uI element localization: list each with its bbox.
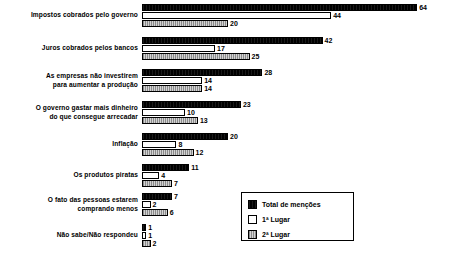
category-label: O fato das pessoas estarem comprando men… [0,196,142,213]
legend-swatch-icon [248,200,257,209]
bar-total: 42 [142,37,332,44]
bar-rect [142,109,185,116]
category-label: Juros cobrados pelos bancos [0,44,142,52]
chart-row: Inflação20812 [0,133,450,156]
chart-row: Os produtos piratas1147 [0,164,450,187]
chart-legend: Total de menções1ª Lugar2ª Lugar [241,192,354,241]
bar-rect [142,201,151,208]
bar-rect [142,117,198,124]
chart-row: O governo gastar mais dinheiro do que co… [0,101,450,124]
bar-rect [142,12,331,19]
bar-group: 281414 [142,69,450,92]
bar-rect [142,180,172,187]
bar-second: 13 [142,117,208,124]
category-label: O governo gastar mais dinheiro do que co… [0,104,142,121]
bar-second: 7 [142,180,178,187]
bar-rect [142,53,250,60]
bar-second: 12 [142,149,203,156]
bar-first: 14 [142,77,212,84]
bar-value-label: 25 [252,53,260,60]
legend-label: 1ª Lugar [262,215,290,224]
bar-rect [142,141,176,148]
bar-value-label: 20 [230,20,238,27]
bar-rect [142,224,146,231]
bar-rect [142,193,172,200]
bar-first: 4 [142,172,165,179]
category-label: Impostos cobrados pelo governo [0,11,142,19]
bar-value-label: 1 [148,232,152,239]
bar-value-label: 10 [187,109,195,116]
legend-swatch-icon [248,215,257,224]
bar-value-label: 8 [178,141,182,148]
bar-rect [142,209,168,216]
bar-second: 2 [142,240,157,247]
bar-rect [142,172,159,179]
bar-first: 44 [142,12,341,19]
chart-row: Impostos cobrados pelo governo644420 [0,4,450,27]
bar-value-label: 28 [264,69,272,76]
bar-total: 23 [142,101,251,108]
bar-total: 28 [142,69,272,76]
legend-item: 1ª Lugar [248,213,346,225]
bar-value-label: 14 [204,77,212,84]
chart-row: As empresas não investirem para aumentar… [0,69,450,92]
legend-label: 2ª Lugar [262,230,290,239]
bar-second: 25 [142,53,259,60]
bar-group: 1147 [142,164,450,187]
bar-rect [142,85,202,92]
legend-item: 2ª Lugar [248,228,346,240]
bar-value-label: 1 [148,224,152,231]
bar-second: 20 [142,20,238,27]
bar-group: 20812 [142,133,450,156]
legend-swatch-icon [248,230,257,239]
bar-value-label: 13 [200,117,208,124]
bar-group: 421725 [142,37,450,60]
bar-value-label: 64 [419,4,427,11]
bar-group: 231013 [142,101,450,124]
bar-rect [142,77,202,84]
bar-value-label: 44 [333,12,341,19]
bar-value-label: 12 [196,149,204,156]
bar-rect [142,133,228,140]
bar-value-label: 23 [243,101,251,108]
bar-value-label: 4 [161,172,165,179]
bar-group: 644420 [142,4,450,27]
bar-rect [142,37,323,44]
bar-value-label: 42 [325,37,333,44]
bar-value-label: 6 [170,209,174,216]
bar-rect [142,240,151,247]
bar-value-label: 20 [230,133,238,140]
bar-total: 64 [142,4,427,11]
bar-value-label: 7 [174,193,178,200]
legend-item: Total de menções [248,198,346,210]
bar-second: 6 [142,209,174,216]
bar-total: 11 [142,164,199,171]
chart-row: Juros cobrados pelos bancos421725 [0,37,450,60]
bar-rect [142,4,417,11]
bar-total: 20 [142,133,238,140]
bar-second: 14 [142,85,212,92]
bar-first: 2 [142,201,157,208]
bar-rect [142,101,241,108]
bar-value-label: 14 [204,85,212,92]
bar-rect [142,232,146,239]
category-label: Os produtos piratas [0,171,142,179]
bar-total: 7 [142,193,178,200]
horizontal-bar-chart: Impostos cobrados pelo governo644420Juro… [0,0,450,260]
bar-value-label: 2 [153,240,157,247]
bar-rect [142,149,194,156]
bar-first: 8 [142,141,182,148]
category-label: Inflação [0,140,142,148]
bar-rect [142,164,189,171]
bar-value-label: 2 [153,201,157,208]
chart-row: O fato das pessoas estarem comprando men… [0,193,450,216]
bar-value-label: 7 [174,180,178,187]
bar-rect [142,20,228,27]
bar-value-label: 11 [191,164,198,171]
bar-first: 17 [142,45,225,52]
bar-first: 10 [142,109,195,116]
bar-first: 1 [142,232,152,239]
legend-label: Total de menções [262,200,321,209]
bar-rect [142,45,215,52]
bar-rect [142,69,262,76]
